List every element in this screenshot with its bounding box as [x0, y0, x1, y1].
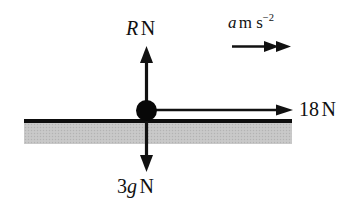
acceleration-unit-exponent: −2 [263, 12, 274, 23]
applied-force-value: 18 [299, 98, 319, 120]
applied-force-arrow [148, 105, 293, 116]
applied-force-unit: N [322, 98, 336, 120]
acceleration-arrow [232, 41, 291, 52]
weight-label: 3gN [117, 176, 154, 196]
particle [136, 100, 157, 121]
acceleration-unit-base: m s [239, 13, 263, 32]
force-diagram: RN 3gN 18N am s−2 [0, 0, 357, 210]
applied-force-label: 18N [299, 99, 336, 119]
weight-symbol: g [127, 175, 137, 197]
weight-unit: N [140, 175, 154, 197]
weight-coefficient: 3 [117, 175, 127, 197]
acceleration-symbol: a [228, 13, 237, 32]
normal-reaction-label: RN [126, 18, 155, 38]
normal-reaction-unit: N [141, 17, 155, 39]
acceleration-label: am s−2 [228, 13, 274, 31]
normal-reaction-symbol: R [126, 17, 138, 39]
